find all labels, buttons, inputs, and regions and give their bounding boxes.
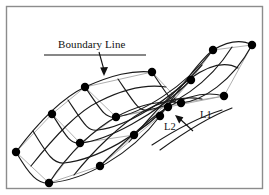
control-point: [48, 110, 56, 118]
control-point: [96, 162, 104, 170]
control-point: [112, 113, 120, 121]
surface-diagram-svg: [0, 0, 269, 195]
control-point: [45, 179, 53, 187]
boundary-line-label: Boundary Line: [58, 38, 126, 50]
control-point: [248, 41, 256, 49]
control-point: [209, 46, 217, 54]
l1-label: L1: [200, 109, 212, 120]
control-point: [164, 103, 172, 111]
control-point: [148, 68, 156, 76]
control-point: [12, 148, 20, 156]
control-point: [130, 131, 138, 139]
control-point: [220, 92, 228, 100]
control-point: [177, 99, 185, 107]
control-point: [81, 83, 89, 91]
figure-canvas: Boundary Line L1 L2: [0, 0, 269, 195]
control-point: [76, 139, 84, 147]
control-point: [187, 76, 195, 84]
control-point: [156, 112, 164, 120]
l2-label: L2: [164, 121, 176, 132]
